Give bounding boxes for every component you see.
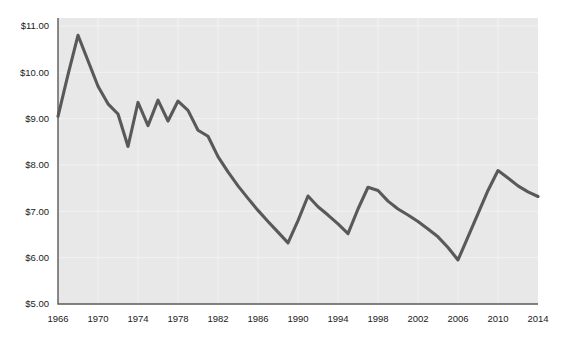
line-chart: $11.00$10.00$9.00$8.00$7.00$6.00$5.00 19… [0,0,567,346]
y-tick-label: $10.00 [20,67,49,78]
x-tick-label: 1970 [87,313,108,324]
x-tick-label: 2014 [527,313,548,324]
y-tick-label: $5.00 [25,298,49,309]
x-tick-label: 1986 [247,313,268,324]
x-tick-label: 1978 [167,313,188,324]
x-tick-label: 2006 [447,313,468,324]
x-tick-label: 1998 [367,313,388,324]
y-axis-tick-labels: $11.00$10.00$9.00$8.00$7.00$6.00$5.00 [20,20,49,309]
x-tick-label: 1994 [327,313,348,324]
y-tick-label: $11.00 [21,20,49,31]
x-axis-tick-labels: 1966197019741978198219861990199419982002… [47,313,548,324]
x-tick-label: 1982 [207,313,228,324]
x-tick-label: 1974 [127,313,148,324]
x-tick-label: 2002 [407,313,428,324]
chart-container: $11.00$10.00$9.00$8.00$7.00$6.00$5.00 19… [0,0,567,346]
y-tick-label: $9.00 [25,113,49,124]
y-tick-label: $7.00 [25,206,49,217]
x-tick-label: 1966 [47,313,68,324]
x-tick-label: 2010 [487,313,508,324]
y-tick-label: $8.00 [25,159,49,170]
y-tick-label: $6.00 [25,252,49,263]
x-tick-label: 1990 [287,313,308,324]
